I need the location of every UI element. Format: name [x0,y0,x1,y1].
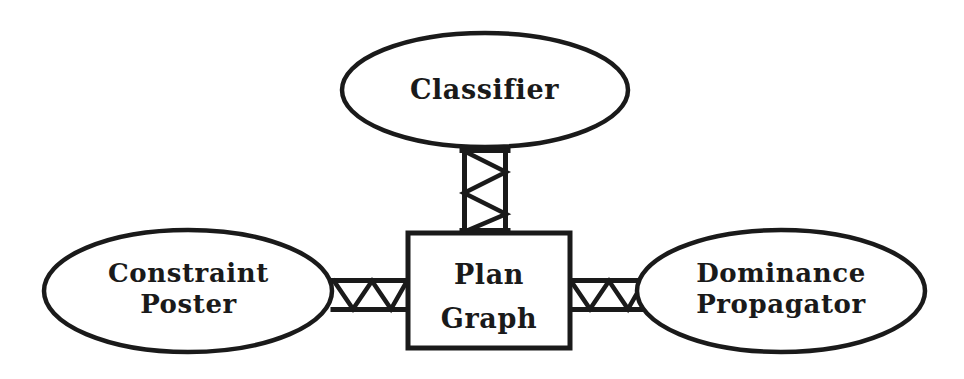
node-plan-graph-rect[interactable] [408,233,570,348]
connector-classifier-plan-graph [462,148,508,233]
node-dominance-propagator-ellipse[interactable] [637,230,925,352]
connector-plan-graph-dominance-propagator [570,281,645,310]
diagram-canvas: Classifier Constraint Poster Plan Graph … [0,0,964,379]
connector-constraint-poster-plan-graph [333,281,408,310]
node-classifier-ellipse[interactable] [342,33,628,147]
node-constraint-poster-ellipse[interactable] [44,230,332,352]
diagram-svg [0,0,964,379]
